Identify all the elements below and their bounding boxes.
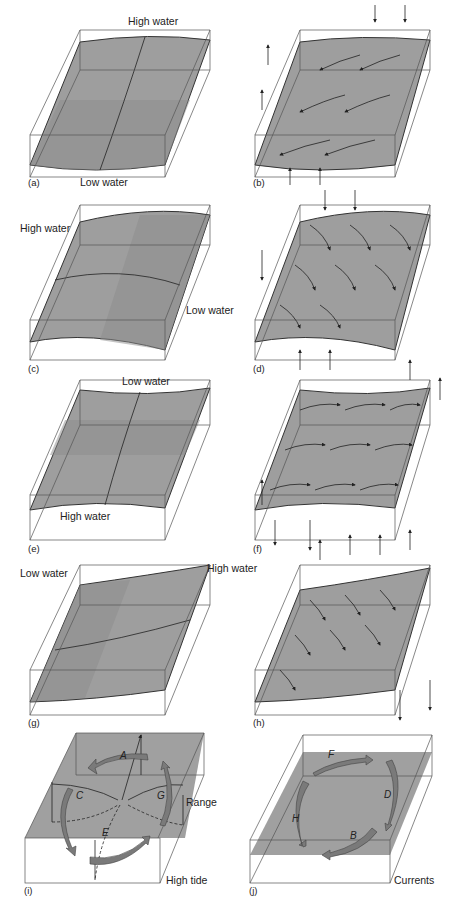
panel-i-corner-label: High tide xyxy=(166,874,208,886)
panel-h-tag: (h) xyxy=(253,717,265,728)
panel-i-letter-a: A xyxy=(119,750,127,761)
panel-g-left-label: Low water xyxy=(20,567,68,579)
panel-c-tag: (c) xyxy=(28,363,39,374)
panel-c-left-label: High water xyxy=(20,222,71,234)
panel-e xyxy=(30,380,210,540)
panel-d xyxy=(255,190,430,370)
panel-j-letter-f: F xyxy=(328,749,335,760)
panel-g-right-label: High water xyxy=(207,562,258,574)
panel-i xyxy=(25,733,204,883)
panel-h xyxy=(255,530,430,720)
panel-f-tag: (f) xyxy=(253,543,262,554)
panel-a-top-label: High water xyxy=(128,15,179,27)
panel-g xyxy=(30,565,210,715)
panel-e-top-label: Low water xyxy=(122,375,170,387)
panel-j xyxy=(250,735,432,883)
panel-d-tag: (d) xyxy=(253,363,265,374)
panel-c-right-label: Low water xyxy=(186,304,234,316)
panel-j-tag: (j) xyxy=(249,885,257,896)
tidal-diagram: High water Low water (a) (b) High water … xyxy=(0,0,457,919)
panel-f xyxy=(255,360,440,550)
panel-j-corner-label: Currents xyxy=(394,874,434,886)
panel-b xyxy=(255,5,430,185)
panel-a-tag: (a) xyxy=(28,177,40,188)
panel-g-tag: (g) xyxy=(28,717,40,728)
panel-a-bottom-label: Low water xyxy=(80,176,128,188)
panel-i-letter-g: G xyxy=(157,790,165,801)
panel-i-letter-c: C xyxy=(76,790,84,801)
panel-j-letter-d: D xyxy=(384,789,391,800)
panel-j-letter-h: H xyxy=(292,813,300,824)
panel-e-tag: (e) xyxy=(28,543,40,554)
panel-i-letter-e: E xyxy=(102,827,109,838)
panel-b-tag: (b) xyxy=(253,177,265,188)
panel-i-range-label: Range xyxy=(186,796,217,808)
panel-e-bottom-label: High water xyxy=(60,510,111,522)
panel-i-tag: (i) xyxy=(24,885,32,896)
panel-a xyxy=(30,30,210,177)
panel-j-letter-b: B xyxy=(350,830,357,841)
